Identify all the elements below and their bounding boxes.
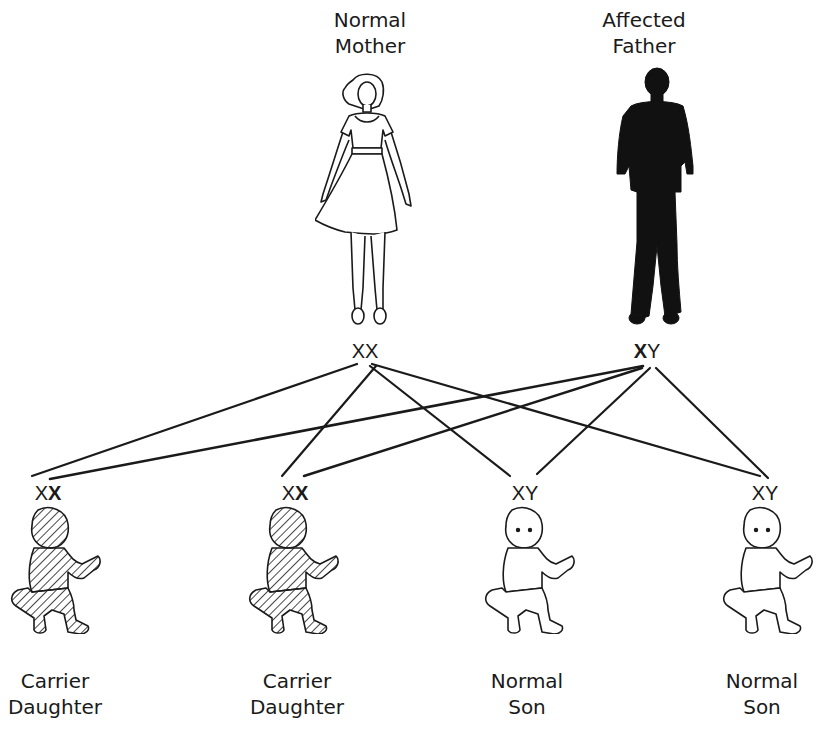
mother-label-line1: Normal <box>320 7 420 33</box>
baby-outline-figure <box>478 506 578 634</box>
child-3-label-line1: Normal <box>472 668 582 694</box>
child-4-label: Normal Son <box>712 668 812 720</box>
mother-genotype-allele-1: X <box>352 340 365 362</box>
child-1-label-line2: Daughter <box>0 694 110 720</box>
mother-genotype-allele-2: X <box>365 340 378 362</box>
child-2-label-line2: Daughter <box>242 694 352 720</box>
father-label-line2: Father <box>594 33 694 59</box>
child-1-allele-affected: X <box>48 482 61 504</box>
child-2-label-line1: Carrier <box>242 668 352 694</box>
father-genotype-allele-y: Y <box>647 340 660 362</box>
baby-hatched-figure <box>4 506 104 634</box>
father-genotype-allele-affected: X <box>634 340 647 362</box>
child-3-allele-2: Y <box>525 482 538 504</box>
child-1-label-line1: Carrier <box>0 668 110 694</box>
child-4-allele-2: Y <box>765 482 778 504</box>
baby-hatched-figure <box>242 506 342 634</box>
woman-outline-figure <box>315 70 415 332</box>
baby-outline-figure <box>716 506 816 634</box>
father-label: Affected Father <box>594 7 694 59</box>
line-mother-to-child-2 <box>282 366 376 476</box>
child-2-allele-1: X <box>282 482 295 504</box>
child-3-genotype: XY <box>495 482 555 504</box>
child-4-allele-1: X <box>752 482 765 504</box>
mother-label-line2: Mother <box>320 33 420 59</box>
child-2-allele-affected: X <box>295 482 308 504</box>
man-silhouette-figure <box>605 66 700 328</box>
father-label-line1: Affected <box>594 7 694 33</box>
child-3-allele-1: X <box>512 482 525 504</box>
child-1-genotype: XX <box>18 482 78 504</box>
child-3-label: Normal Son <box>472 668 582 720</box>
child-1-label: Carrier Daughter <box>0 668 110 720</box>
mother-genotype: XX <box>340 340 390 362</box>
mother-label: Normal Mother <box>320 7 420 59</box>
line-mother-to-child-1 <box>32 364 357 476</box>
child-4-label-line2: Son <box>712 694 812 720</box>
child-2-label: Carrier Daughter <box>242 668 352 720</box>
child-4-label-line1: Normal <box>712 668 812 694</box>
father-genotype: XY <box>622 340 672 362</box>
child-3-label-line2: Son <box>472 694 582 720</box>
child-4-genotype: XY <box>735 482 795 504</box>
child-1-allele-1: X <box>35 482 48 504</box>
child-2-genotype: XX <box>265 482 325 504</box>
